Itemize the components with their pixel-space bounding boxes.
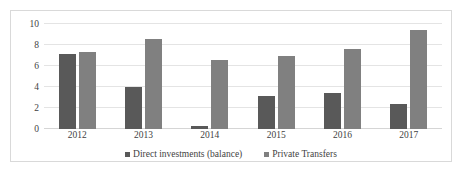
x-axis-tick-label: 2015 (243, 131, 309, 141)
x-axis-tick-label: 2016 (309, 131, 375, 141)
bar (211, 60, 228, 129)
bar-series-layer (44, 24, 442, 129)
bar (258, 96, 275, 129)
bar (145, 39, 162, 129)
bar (59, 54, 76, 129)
bar (125, 87, 142, 129)
legend-swatch-icon (264, 152, 269, 157)
legend-label: Direct investments (balance) (133, 150, 242, 160)
y-axis-tick-label: 6 (34, 61, 39, 71)
legend-entry[interactable]: Direct investments (balance) (125, 150, 242, 160)
bar (344, 49, 361, 129)
legend-label: Private Transfers (272, 150, 337, 160)
bar (191, 126, 208, 129)
x-axis-category-labels: 201220132014201520162017 (44, 131, 442, 141)
y-axis-tick-label: 8 (34, 40, 39, 50)
chart-container: 0246810 201220132014201520162017 Direct … (10, 10, 452, 162)
x-axis-tick-label: 2017 (376, 131, 442, 141)
y-axis-tick-label: 0 (34, 124, 39, 134)
bar (278, 56, 295, 130)
y-axis-tick-label: 2 (34, 103, 39, 113)
legend-entry[interactable]: Private Transfers (264, 150, 337, 160)
chart-legend: Direct investments (balance)Private Tran… (11, 150, 451, 160)
x-axis-tick-label: 2012 (44, 131, 110, 141)
bar-group (243, 24, 309, 129)
bar (324, 93, 341, 129)
bar (79, 52, 96, 129)
bar-group (110, 24, 176, 129)
bar-group (376, 24, 442, 129)
bar-group (44, 24, 110, 129)
x-axis-tick-label: 2014 (177, 131, 243, 141)
bar-group (309, 24, 375, 129)
x-axis-tick-label: 2013 (110, 131, 176, 141)
bar-group (177, 24, 243, 129)
bar (410, 30, 427, 129)
y-axis-tick-label: 10 (30, 19, 40, 29)
y-axis-tick-label: 4 (34, 82, 39, 92)
plot-area: 0246810 (44, 24, 442, 129)
bar (390, 104, 407, 129)
legend-swatch-icon (125, 152, 130, 157)
